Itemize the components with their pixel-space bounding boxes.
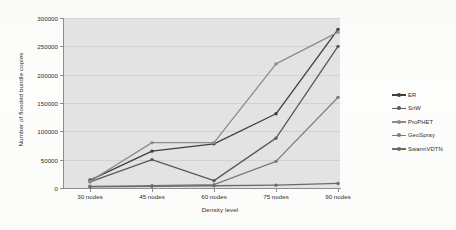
- legend-item-prophet[interactable]: ProPHET: [392, 115, 456, 129]
- x-tick-mark: [276, 189, 277, 192]
- y-tick-mark: [60, 160, 63, 161]
- legend-item-snw[interactable]: SnW: [392, 102, 456, 116]
- legend-label: SnW: [408, 105, 421, 111]
- y-tick-mark: [60, 103, 63, 104]
- y-tick-mark: [60, 188, 63, 189]
- legend-label: ProPHET: [408, 119, 433, 125]
- legend-swatch-icon: [392, 132, 406, 139]
- legend-label: GeoSpray: [408, 132, 435, 138]
- legend-swatch-icon: [392, 105, 406, 112]
- legend-item-er[interactable]: ER: [392, 88, 456, 102]
- chart-legend: ER SnW ProPHET: [392, 88, 456, 156]
- x-tick-mark: [214, 189, 215, 192]
- x-tick-label: 30 nodes: [60, 193, 120, 200]
- legend-marker: [397, 147, 401, 151]
- legend-label: ER: [408, 92, 416, 98]
- legend-label: SwarmVDTN: [408, 146, 443, 152]
- legend-marker: [397, 120, 401, 124]
- legend-item-swarmvdtn[interactable]: SwarmVDTN: [392, 142, 456, 156]
- y-tick-mark: [60, 131, 63, 132]
- x-tick-mark: [90, 189, 91, 192]
- y-axis-title: Number of flooded bundle copies: [17, 30, 24, 170]
- x-tick-label: 45 nodes: [122, 193, 182, 200]
- x-tick-label: 90 nodes: [308, 193, 368, 200]
- y-tick-mark: [60, 46, 63, 47]
- legend-swatch-icon: [392, 145, 406, 152]
- legend-swatch-icon: [392, 91, 406, 98]
- line-chart: 300000 250000 200000 150000 100000 50000…: [0, 0, 456, 230]
- x-tick-mark: [338, 189, 339, 192]
- legend-swatch-icon: [392, 118, 406, 125]
- legend-marker: [397, 106, 401, 110]
- legend-item-geospray[interactable]: GeoSpray: [392, 129, 456, 143]
- y-tick-mark: [60, 75, 63, 76]
- x-tick-label: 75 nodes: [246, 193, 306, 200]
- y-tick-label: 300000: [16, 15, 58, 22]
- y-tick-mark: [60, 18, 63, 19]
- legend-marker: [397, 133, 401, 137]
- legend-marker: [397, 93, 401, 97]
- x-axis-title: Density level: [150, 206, 290, 213]
- x-tick-label: 60 nodes: [184, 193, 244, 200]
- y-tick-label: 0: [16, 185, 58, 192]
- figure-page: 300000 250000 200000 150000 100000 50000…: [0, 0, 456, 230]
- x-tick-mark: [152, 189, 153, 192]
